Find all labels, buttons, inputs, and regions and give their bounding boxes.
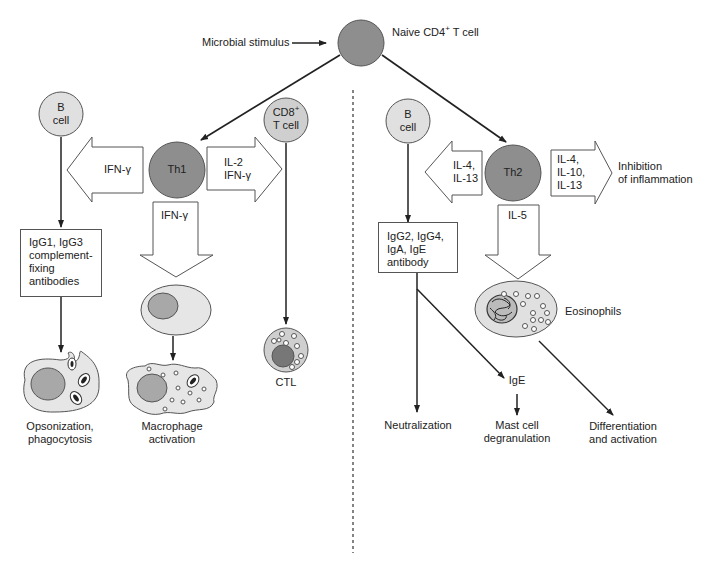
th1-antibody-box: IgG1, IgG3 complement- fixing antibodies	[20, 229, 102, 297]
th2-left-arrow-label-1: IL-4,	[453, 159, 478, 172]
phagocyte-nucleus	[31, 368, 65, 400]
cd8-label-1: CD8+	[262, 106, 310, 119]
mast-cell-label: Mast celldegranulation	[472, 419, 562, 445]
th1-right-arrow-label: IL-2IFN-γ	[224, 156, 251, 182]
opsonization-label-2: phagocytosis	[10, 433, 110, 446]
th1-b-cell-label-2: cell	[41, 114, 81, 127]
th2-antibody-box: IgG2, IgG4, IgA, IgE antibody	[378, 222, 458, 273]
differentiation-label: Differentiationand activation	[573, 420, 673, 446]
mast-cell-label-1: Mast cell	[472, 419, 562, 432]
diagram-canvas	[0, 0, 708, 564]
th1-left-arrow-label: IFN-γ	[104, 163, 131, 176]
ige-label: IgE	[502, 374, 532, 387]
macrophage-label-2: activation	[122, 433, 222, 446]
differentiation-label-2: and activation	[573, 433, 673, 446]
macrophage-nucleus	[148, 293, 178, 319]
naive-cd4-label: Naive CD4+ T cell	[392, 26, 479, 39]
eosinophil-to-differentiation-arrow	[539, 341, 613, 415]
differentiation-label-1: Differentiation	[573, 420, 673, 433]
th2-antibody-line-3: antibody	[387, 256, 449, 269]
mast-cell-label-2: degranulation	[472, 432, 562, 445]
th2-antibody-line-2: IgA, IgE	[387, 243, 449, 256]
macrophage-label-1: Macrophage	[122, 420, 222, 433]
th2-down-arrow-label: IL-5	[508, 209, 527, 222]
opsonization-label: Opsonization,phagocytosis	[10, 420, 110, 446]
macrophage-activation-label: Macrophageactivation	[122, 420, 222, 446]
th2-b-cell-label-1: B	[388, 108, 428, 121]
ctl-label: CTL	[266, 376, 306, 389]
phagosome-1-core	[71, 361, 74, 367]
th1-right-arrow-label-2: IFN-γ	[224, 169, 251, 182]
naive-cd4-label-suffix: T cell	[450, 26, 479, 38]
th1-antibody-line-2: complement-	[29, 249, 93, 262]
microbial-stimulus-label: Microbial stimulus	[202, 36, 289, 49]
cd8-label: CD8+T cell	[262, 106, 310, 132]
th2-right-arrow-label-3: IL-13	[557, 179, 585, 192]
th1-cell-label: Th1	[157, 163, 197, 176]
th2-antibody-line-1: IgG2, IgG4,	[387, 230, 449, 243]
th1-b-cell-label-1: B	[41, 101, 81, 114]
th2-b-cell-label-2: cell	[388, 121, 428, 134]
inhibition-label-1: Inhibition	[618, 160, 693, 173]
naive-cd4-label-text: Naive CD4	[392, 26, 445, 38]
th1-b-cell-label: Bcell	[41, 101, 81, 127]
inhibition-label: Inhibitionof inflammation	[618, 160, 693, 186]
th2-right-arrow-label-1: IL-4,	[557, 153, 585, 166]
neutralization-label: Neutralization	[375, 419, 461, 432]
th1-antibody-line-1: IgG1, IgG3	[29, 236, 93, 249]
naive-cd4-cell	[338, 20, 384, 66]
cd8-label-2: T cell	[262, 119, 310, 132]
th1-antibody-line-3: fixing	[29, 262, 93, 275]
th1-right-arrow-label-1: IL-2	[224, 156, 251, 169]
cd8-label-sup: +	[295, 104, 300, 113]
opsonization-label-1: Opsonization,	[10, 420, 110, 433]
th2-right-arrow-label-2: IL-10,	[557, 166, 585, 179]
cd8-label-text: CD8	[273, 106, 295, 118]
th2-cell-label: Th2	[493, 166, 533, 179]
th2-left-arrow-label: IL-4,IL-13	[453, 159, 478, 185]
inhibition-label-2: of inflammation	[618, 173, 693, 186]
th1-down-arrow-label: IFN-γ	[161, 209, 188, 222]
th2-b-cell-label: Bcell	[388, 108, 428, 134]
ctl-nucleus	[272, 345, 294, 367]
th2-left-arrow-label-2: IL-13	[453, 172, 478, 185]
activated-macrophage-nucleus	[137, 374, 167, 402]
eosinophils-label: Eosinophils	[565, 305, 621, 318]
th2-right-arrow-label: IL-4,IL-10,IL-13	[557, 153, 585, 192]
th1-antibody-line-4: antibodies	[29, 275, 93, 288]
